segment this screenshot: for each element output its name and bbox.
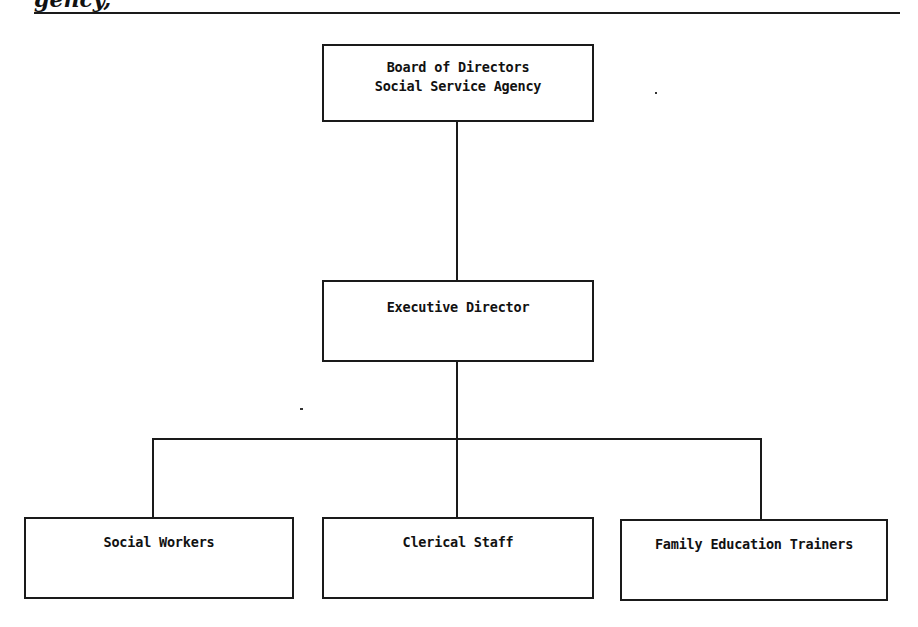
clerical-staff-box: Clerical Staff — [322, 517, 594, 599]
connector-to-social-workers — [152, 438, 154, 518]
board-title-line2: Social Service Agency — [324, 77, 592, 96]
executive-director-label: Executive Director — [324, 298, 592, 317]
scan-artifact-speck — [300, 408, 303, 410]
clipped-heading-text: gency, — [34, 0, 111, 12]
executive-director-box: Executive Director — [322, 280, 594, 362]
social-workers-label: Social Workers — [26, 533, 292, 552]
scan-artifact-speck — [655, 92, 657, 94]
board-of-directors-box: Board of Directors Social Service Agency — [322, 44, 594, 122]
clerical-staff-label: Clerical Staff — [324, 533, 592, 552]
board-title-line1: Board of Directors — [324, 58, 592, 77]
connector-to-family-education-trainers — [760, 438, 762, 520]
family-education-trainers-label: Family Education Trainers — [622, 535, 886, 554]
branch-horizontal-connector — [152, 438, 762, 440]
social-workers-box: Social Workers — [24, 517, 294, 599]
top-horizontal-rule — [34, 12, 900, 14]
connector-board-to-executive — [456, 122, 458, 280]
family-education-trainers-box: Family Education Trainers — [620, 519, 888, 601]
